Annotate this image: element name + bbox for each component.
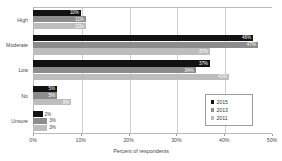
bar-2011-moderate[interactable]: 37%	[33, 48, 210, 54]
x-tick-label-30: 30%	[171, 136, 181, 144]
legend-item-2011[interactable]: 2011	[211, 114, 248, 122]
bar-value-label: 37%	[199, 48, 208, 55]
category-label-high: High	[17, 16, 28, 24]
legend: 201520132011	[205, 94, 253, 126]
bar-2013-low[interactable]: 34%	[33, 67, 196, 73]
x-axis: 0%10%20%30%40%50%	[33, 134, 272, 144]
category-label-unsure: Unsure	[11, 117, 28, 125]
category-label-moderate: Moderate	[6, 41, 28, 49]
x-tick-label-10: 10%	[76, 136, 86, 144]
bar-value-label: 34%	[185, 67, 194, 74]
bar-group-moderate: 46%47%37%	[33, 32, 272, 57]
bar-2013-no[interactable]: 5%	[33, 92, 57, 98]
bar-value-label: 37%	[199, 60, 208, 67]
bar-2011-low[interactable]: 41%	[33, 74, 229, 80]
bar-2011-no[interactable]: 8%	[33, 99, 71, 105]
bar-chart: HighModerateLowNoUnsure 10%11%11%46%47%3…	[0, 0, 282, 161]
legend-swatch-icon	[211, 100, 214, 103]
legend-item-2013[interactable]: 2013	[211, 106, 248, 114]
bar-value-label: 47%	[247, 41, 256, 48]
legend-label: 2013	[216, 106, 228, 114]
x-tick-label-40: 40%	[219, 136, 229, 144]
bar-value-label: 41%	[218, 73, 227, 80]
bar-value-label: 11%	[75, 23, 84, 30]
x-tick-label-50: 50%	[267, 136, 277, 144]
category-label-no: No	[21, 92, 28, 100]
bar-value-label: 5%	[48, 92, 54, 99]
legend-swatch-icon	[211, 108, 214, 111]
bar-2011-unsure[interactable]: 3%	[33, 125, 47, 131]
bar-2013-unsure[interactable]: 3%	[33, 118, 47, 124]
bar-2015-moderate[interactable]: 46%	[33, 35, 253, 41]
x-axis-title: Percent of respondents	[0, 148, 282, 154]
category-axis: HighModerateLowNoUnsure	[0, 7, 31, 134]
bar-2015-unsure[interactable]: 2%	[33, 111, 43, 117]
x-tick-label-20: 20%	[123, 136, 133, 144]
x-tick-label-0: 0%	[29, 136, 37, 144]
bar-value-label: 3%	[49, 124, 55, 131]
bar-value-label: 8%	[63, 99, 69, 106]
legend-item-2015[interactable]: 2015	[211, 98, 248, 106]
bar-2015-high[interactable]: 10%	[33, 10, 81, 16]
category-label-low: Low	[18, 66, 28, 74]
legend-label: 2015	[216, 98, 228, 106]
bar-group-low: 37%34%41%	[33, 58, 272, 83]
bar-2013-moderate[interactable]: 47%	[33, 42, 258, 48]
bar-2015-low[interactable]: 37%	[33, 60, 210, 66]
bar-2011-high[interactable]: 11%	[33, 23, 86, 29]
legend-label: 2011	[216, 114, 227, 122]
bar-group-high: 10%11%11%	[33, 7, 272, 32]
legend-swatch-icon	[211, 116, 214, 119]
